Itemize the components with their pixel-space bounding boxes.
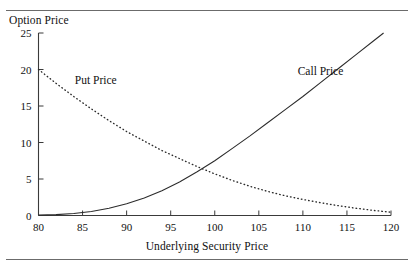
chart-plot-area: 0510152025 80859095100105110115120 Put P… [0, 0, 414, 271]
x-tick-label: 110 [295, 221, 312, 233]
x-tick-group: 80859095100105110115120 [33, 211, 400, 233]
y-tick-label: 15 [21, 100, 33, 112]
x-tick-label: 115 [339, 221, 356, 233]
x-axis-title: Underlying Security Price [0, 240, 414, 252]
x-tick-label: 90 [121, 221, 133, 233]
y-tick-label: 20 [21, 64, 33, 76]
x-tick-label: 80 [33, 221, 45, 233]
x-tick-label: 95 [165, 221, 177, 233]
call-price-curve [39, 33, 384, 215]
y-tick-label: 10 [21, 137, 33, 149]
x-tick-label: 105 [251, 221, 268, 233]
x-tick-label: 85 [77, 221, 89, 233]
x-tick-label: 120 [383, 221, 400, 233]
series-label: Call Price [298, 65, 344, 77]
series-label: Put Price [75, 74, 117, 86]
y-tick-label: 25 [21, 27, 33, 39]
series-annotation-group: Put PriceCall Price [75, 65, 343, 86]
y-tick-label: 5 [26, 173, 32, 185]
y-tick-group: 0510152025 [21, 27, 44, 222]
put-price-curve [39, 70, 392, 213]
option-price-chart: Option Price 0510152025 8085909510010511… [0, 0, 414, 271]
x-tick-label: 100 [207, 221, 224, 233]
y-tick-label: 0 [26, 210, 32, 222]
